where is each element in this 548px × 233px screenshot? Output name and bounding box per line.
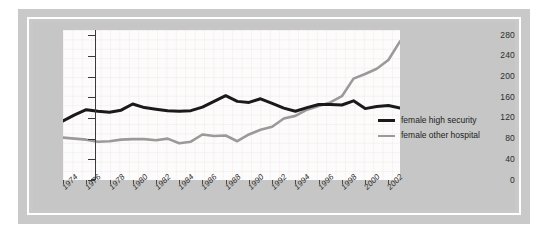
y-axis-tick-label: 280 [467, 31, 515, 40]
y-axis-tick-label: 0 [467, 176, 515, 185]
plot-area [63, 30, 400, 180]
y-axis-tick [88, 35, 95, 36]
y-axis-tick [88, 139, 95, 140]
y-axis-tick [88, 159, 95, 160]
legend-item-female-other-hospital: female other hospital [378, 129, 510, 142]
line-chart: 04080120160200240280 1974197619781980198… [33, 22, 515, 210]
y-axis-tick-label: 160 [467, 93, 515, 102]
y-axis-tick [88, 77, 95, 78]
legend-item-female-high-security: female high security [378, 114, 510, 127]
plot-gridlines [63, 30, 400, 180]
y-axis-tick-label: 200 [467, 72, 515, 81]
y-axis-tick-label: 40 [467, 155, 515, 164]
y-axis-tick [88, 56, 95, 57]
legend-swatch-female-other-hospital [378, 135, 395, 137]
legend-label-female-high-security: female high security [401, 116, 477, 125]
figure-root: 04080120160200240280 1974197619781980198… [0, 0, 548, 233]
plot-svg [63, 30, 400, 180]
y-axis-line [95, 30, 96, 180]
y-axis-tick [88, 97, 95, 98]
chart-legend: female high security female other hospit… [378, 114, 510, 144]
y-axis-tick [88, 118, 95, 119]
legend-swatch-female-high-security [378, 119, 395, 122]
legend-label-female-other-hospital: female other hospital [401, 131, 480, 140]
y-axis-tick-label: 240 [467, 51, 515, 60]
